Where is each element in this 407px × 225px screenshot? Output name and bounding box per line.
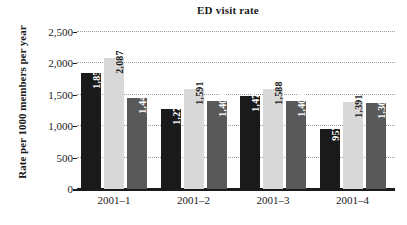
- ed-visit-rate-chart: ED visit rate Rate per 1000 members per …: [0, 0, 407, 225]
- bar-value-label: 1,404: [296, 93, 307, 117]
- bar-group-1: 1,8532,0871,442: [77, 32, 157, 189]
- bar-series-1-2001–4[interactable]: 957: [320, 129, 340, 189]
- bar-value-label: 2,087: [114, 50, 125, 74]
- bar-series-2-2001–2[interactable]: 1,591: [184, 89, 204, 189]
- bar-value-label: 1,476: [250, 89, 261, 113]
- x-tick-label-4: 2001–4: [313, 194, 393, 206]
- x-axis-line: [73, 189, 395, 191]
- chart-title: ED visit rate: [60, 4, 396, 16]
- bar-series-3-2001–4[interactable]: 1,365: [366, 103, 386, 189]
- bar-series-2-2001–4[interactable]: 1,391: [343, 102, 363, 189]
- bar-value-label: 1,853: [91, 65, 102, 89]
- bar-value-label: 1,365: [376, 96, 387, 120]
- x-tick-label-3: 2001–3: [233, 194, 313, 206]
- bar-value-label: 1,273: [171, 101, 182, 125]
- x-tick-label-1: 2001–1: [74, 194, 154, 206]
- y-tick-label-0: 0: [29, 183, 73, 195]
- bar-series-1-2001–1[interactable]: 1,853: [81, 73, 101, 189]
- bar-value-label: 1,404: [217, 93, 228, 117]
- bar-series-2-2001–1[interactable]: 2,087: [104, 58, 124, 189]
- y-tick-mark-500: [73, 158, 77, 159]
- bar-series-1-2001–3[interactable]: 1,476: [240, 96, 260, 189]
- bar-series-3-2001–1[interactable]: 1,442: [127, 98, 147, 189]
- bar-group-3: 1,4761,5881,404: [236, 32, 316, 189]
- y-tick-label-1500: 1,500: [29, 89, 73, 101]
- y-tick-mark-2000: [73, 63, 77, 64]
- y-tick-label-2500: 2,500: [29, 26, 73, 38]
- y-axis-title: Rate per 1000 members per year: [16, 12, 28, 192]
- plot-area: 1,8532,0871,4421,2731,5911,4041,4761,588…: [77, 32, 395, 189]
- bar-series-3-2001–3[interactable]: 1,404: [286, 101, 306, 189]
- bar-series-2-2001–3[interactable]: 1,588: [263, 89, 283, 189]
- y-tick-label-1000: 1,000: [29, 120, 73, 132]
- bar-group-4: 9571,3911,365: [316, 32, 396, 189]
- y-tick-label-2000: 2,000: [29, 57, 73, 69]
- y-tick-label-500: 500: [29, 152, 73, 164]
- x-tick-label-2: 2001–2: [154, 194, 234, 206]
- bar-series-3-2001–2[interactable]: 1,404: [207, 101, 227, 189]
- bar-series-1-2001–2[interactable]: 1,273: [161, 109, 181, 189]
- bar-value-label: 1,588: [273, 82, 284, 106]
- bar-value-label: 1,391: [353, 94, 364, 118]
- bar-group-2: 1,2731,5911,404: [157, 32, 237, 189]
- bar-value-label: 1,591: [194, 81, 205, 105]
- y-tick-mark-2500: [73, 32, 77, 33]
- y-tick-mark-1500: [73, 95, 77, 96]
- y-tick-mark-1000: [73, 126, 77, 127]
- bar-value-label: 1,442: [137, 91, 148, 115]
- bar-value-label: 957: [330, 125, 341, 141]
